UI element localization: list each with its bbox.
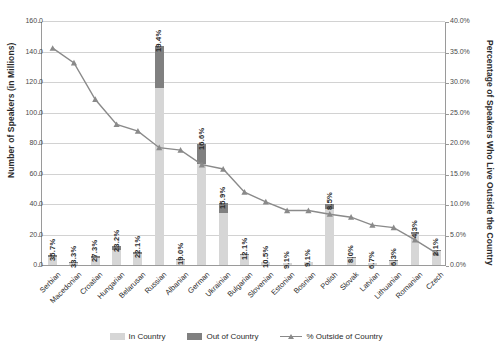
bar-data-label: 6.3% bbox=[389, 248, 398, 266]
y-axis-right-tick-label: 40.0% bbox=[450, 17, 494, 24]
tick-mark bbox=[446, 144, 449, 145]
tick-mark bbox=[446, 114, 449, 115]
y-axis-left-tick-label: 160.0 bbox=[3, 17, 43, 24]
bar-data-label: 35.7% bbox=[48, 238, 57, 260]
y-axis-left-tick-label: 120.0 bbox=[3, 78, 43, 85]
bar-data-label: 33.3% bbox=[69, 245, 78, 267]
tick-mark bbox=[38, 175, 41, 176]
tick-mark bbox=[38, 114, 41, 115]
pct-outside-line bbox=[53, 48, 437, 253]
legend-swatch-out-of-country bbox=[187, 333, 202, 340]
tick-mark bbox=[446, 53, 449, 54]
bar-data-label: 16.6% bbox=[197, 127, 206, 149]
legend-label-out-of-country: Out of Country bbox=[206, 332, 258, 341]
tick-mark bbox=[446, 205, 449, 206]
line-data-point-marker bbox=[50, 45, 56, 51]
bar-data-label: 8.0% bbox=[346, 245, 355, 263]
bar-data-label: 4.3% bbox=[410, 220, 419, 238]
bar-data-label: 23.2% bbox=[112, 230, 121, 252]
y-axis-right-tick-label: 25.0% bbox=[450, 109, 494, 116]
plot-area: 35.7%33.3%27.3%23.2%22.1%19.4%19.0%16.6%… bbox=[41, 22, 446, 266]
y-axis-right-tick-label: 20.0% bbox=[450, 139, 494, 146]
bar-data-label: 9.1% bbox=[303, 250, 312, 268]
legend-swatch-in-country bbox=[110, 333, 125, 340]
bar-data-label: 2.1% bbox=[431, 238, 440, 256]
tick-mark bbox=[38, 236, 41, 237]
y-axis-left-tick-label: 40.0 bbox=[3, 200, 43, 207]
line-data-point-marker bbox=[92, 96, 98, 102]
y-axis-right-tick-label: 15.0% bbox=[450, 170, 494, 177]
y-axis-left-tick-label: 80.0 bbox=[3, 139, 43, 146]
y-axis-right-tick-label: 10.0% bbox=[450, 200, 494, 207]
bar-data-label: 22.1% bbox=[133, 236, 142, 258]
legend-item-in-country: In Country bbox=[110, 332, 166, 341]
bar-data-label: 6.7% bbox=[367, 251, 376, 269]
tick-mark bbox=[38, 144, 41, 145]
legend-label-pct-outside: % Outside of Country bbox=[306, 332, 382, 341]
tick-mark bbox=[446, 266, 449, 267]
legend-line-marker-icon bbox=[280, 333, 302, 341]
bar-data-label: 15.9% bbox=[218, 187, 227, 209]
y-axis-right-tick-label: 0.0% bbox=[450, 261, 494, 268]
bar-data-label: 9.1% bbox=[282, 251, 291, 269]
tick-mark bbox=[446, 83, 449, 84]
tick-mark bbox=[446, 22, 449, 23]
tick-mark bbox=[38, 53, 41, 54]
bar-data-label: 27.3% bbox=[90, 240, 99, 262]
tick-mark bbox=[38, 205, 41, 206]
chart-legend: In Country Out of Country % Outside of C… bbox=[0, 332, 492, 341]
legend-item-pct-outside: % Outside of Country bbox=[280, 332, 382, 341]
y-axis-left-tick-label: 60.0 bbox=[3, 170, 43, 177]
bar-data-label: 10.5% bbox=[261, 246, 270, 268]
y-axis-left-tick-label: 0.0 bbox=[3, 261, 43, 268]
y-axis-right-tick-label: 30.0% bbox=[450, 78, 494, 85]
y-axis-right-tick-label: 35.0% bbox=[450, 48, 494, 55]
legend-item-out-of-country: Out of Country bbox=[187, 332, 258, 341]
tick-mark bbox=[38, 22, 41, 23]
line-data-point-marker bbox=[263, 199, 269, 205]
x-axis-category-labels: SerbianMacedonianCroatianHungarianBelaru… bbox=[41, 268, 446, 330]
bar-data-label: 19.4% bbox=[154, 30, 163, 52]
y-axis-left-tick-label: 140.0 bbox=[3, 48, 43, 55]
legend-label-in-country: In Country bbox=[129, 332, 166, 341]
tick-mark bbox=[446, 175, 449, 176]
line-series bbox=[42, 22, 447, 266]
bar-data-label: 19.0% bbox=[176, 243, 185, 265]
y-axis-left-tick-label: 20.0 bbox=[3, 231, 43, 238]
bar-data-label: 8.5% bbox=[325, 192, 334, 210]
tick-mark bbox=[38, 83, 41, 84]
y-axis-right-tick-label: 5.0% bbox=[450, 231, 494, 238]
bar-data-label: 12.1% bbox=[240, 237, 249, 259]
tick-mark bbox=[38, 266, 41, 267]
tick-mark bbox=[446, 236, 449, 237]
y-axis-left-tick-label: 100.0 bbox=[3, 109, 43, 116]
